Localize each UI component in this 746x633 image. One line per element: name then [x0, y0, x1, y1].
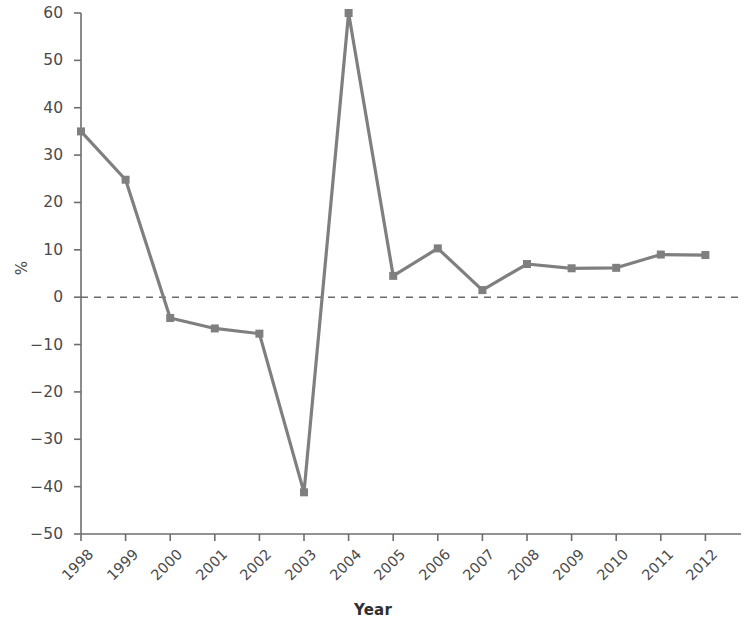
plot-area	[0, 0, 746, 633]
chart-figure: % −50−40−30−20−100102030405060 199819992…	[0, 0, 746, 633]
y-axis-ticks	[74, 13, 81, 534]
x-axis-ticks	[81, 534, 705, 541]
x-axis-title: Year	[0, 601, 746, 619]
axis-lines	[81, 13, 741, 534]
data-series-line	[81, 13, 705, 492]
data-point-markers	[77, 9, 709, 496]
